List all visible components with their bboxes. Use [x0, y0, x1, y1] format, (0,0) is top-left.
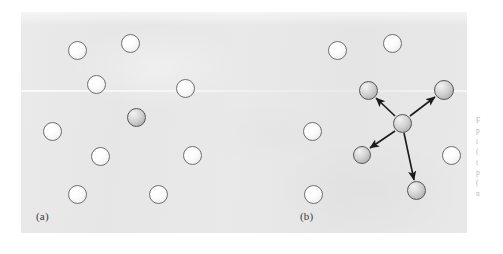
figure-plate-crease: [21, 90, 467, 92]
caption-line: t: [476, 158, 503, 168]
particle-a2: [121, 34, 140, 53]
particle-a3: [87, 75, 106, 94]
particle-b5: [442, 146, 461, 165]
particle-b-lower-left: [353, 146, 371, 164]
particle-b-center: [393, 114, 412, 133]
particle-a9: [68, 185, 87, 204]
particle-b-upper-right: [434, 80, 454, 100]
particle-b1: [328, 41, 347, 60]
caption-line: t: [476, 137, 503, 147]
particle-b4: [304, 185, 323, 204]
particle-a7: [91, 147, 110, 166]
figure-root: (a) (b) F p t ( t p ( n: [0, 0, 503, 254]
caption-line: F: [476, 116, 503, 126]
panel-label-b: (b): [300, 210, 313, 222]
caption-line: (: [476, 147, 503, 157]
caption-line: p: [476, 168, 503, 178]
particle-a6: [127, 108, 146, 127]
caption-line: (: [476, 178, 503, 188]
caption-line: n: [476, 189, 503, 199]
particle-a10: [149, 185, 168, 204]
particle-b-upper-left: [359, 81, 378, 100]
particle-b2: [383, 34, 402, 53]
particle-a1: [68, 41, 87, 60]
particle-b-bottom: [407, 181, 426, 200]
panel-label-a: (a): [36, 210, 49, 222]
figure-caption-margin: F p t ( t p ( n: [476, 116, 503, 220]
particle-a4: [176, 79, 195, 98]
particle-a8: [183, 146, 202, 165]
caption-line: p: [476, 126, 503, 136]
particle-b3: [303, 122, 322, 141]
particle-a5: [43, 122, 62, 141]
